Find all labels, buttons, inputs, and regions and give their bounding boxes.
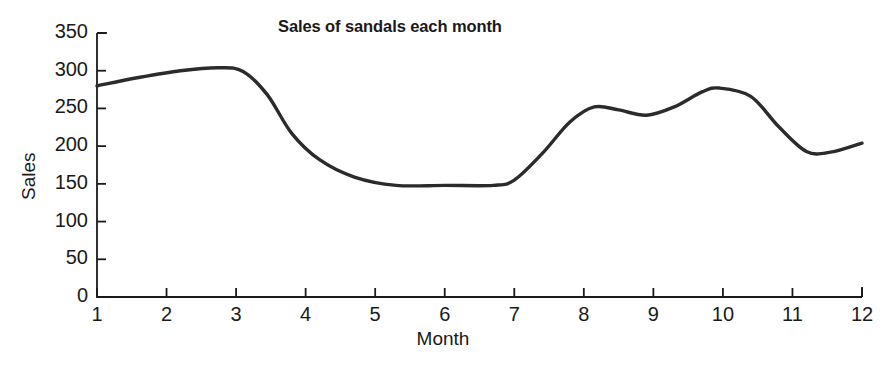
x-tick-label: 5 — [370, 303, 381, 326]
chart-tick-marks — [97, 33, 862, 297]
y-tick-label: 150 — [55, 171, 88, 194]
y-tick-label: 250 — [55, 95, 88, 118]
x-tick-label: 1 — [91, 303, 102, 326]
y-tick-label: 50 — [66, 246, 88, 269]
chart-axes — [97, 33, 862, 297]
x-tick-label: 6 — [439, 303, 450, 326]
x-axis-title: Month — [0, 328, 886, 350]
y-tick-label: 200 — [55, 133, 88, 156]
x-tick-label: 12 — [851, 303, 873, 326]
figure-container: Sales of sandals each month Sales Month … — [0, 0, 886, 378]
x-tick-label: 9 — [648, 303, 659, 326]
x-tick-label: 3 — [231, 303, 242, 326]
x-tick-label: 7 — [509, 303, 520, 326]
y-tick-label: 0 — [77, 284, 88, 307]
x-tick-label: 2 — [161, 303, 172, 326]
y-axis-title: Sales — [18, 152, 40, 200]
chart-title: Sales of sandals each month — [278, 17, 502, 36]
x-tick-label: 4 — [300, 303, 311, 326]
y-tick-label: 100 — [55, 209, 88, 232]
x-tick-label: 8 — [578, 303, 589, 326]
y-tick-label: 350 — [55, 20, 88, 43]
x-tick-label: 11 — [782, 303, 803, 326]
data-series-line — [97, 68, 862, 186]
y-tick-label: 300 — [55, 58, 88, 81]
x-tick-label: 10 — [712, 303, 734, 326]
